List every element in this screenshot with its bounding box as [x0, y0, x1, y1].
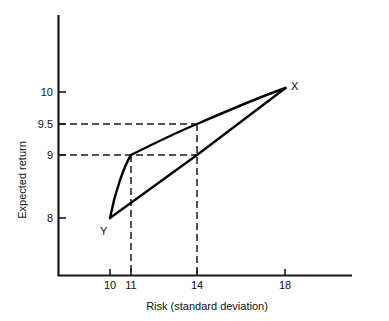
chart-plot-area: 10 9.5 9 8 10 11 14 18 [0, 0, 389, 321]
x-axis-title: Risk (standard deviation) [146, 300, 268, 312]
x-tick-label-14: 14 [191, 279, 203, 291]
y-tick-label-8: 8 [47, 212, 53, 224]
y-tick-label-9-5: 9.5 [38, 118, 53, 130]
y-tick-label-9: 9 [47, 149, 53, 161]
x-axis-tick-labels: 10 11 14 18 [104, 279, 291, 291]
y-axis-tick-labels: 10 9.5 9 8 [38, 86, 53, 224]
x-tick-label-18: 18 [279, 279, 291, 291]
point-x-label: X [291, 80, 299, 92]
y-axis-title: Expected return [16, 141, 28, 219]
y-tick-label-10: 10 [41, 86, 53, 98]
x-tick-label-11: 11 [125, 279, 136, 291]
reference-lines-group [59, 124, 197, 275]
x-tick-label-10: 10 [104, 279, 116, 291]
axis-titles-group: Expected return Risk (standard deviation… [16, 141, 268, 312]
chart-figure: 10 9.5 9 8 10 11 14 18 [0, 0, 389, 321]
point-y-label: Y [100, 225, 108, 237]
